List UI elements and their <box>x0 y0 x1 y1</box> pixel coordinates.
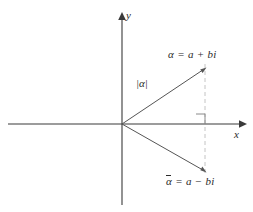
alpha-conjugate-expression: = a − bi <box>172 175 215 187</box>
y-axis-label: y <box>126 10 131 21</box>
x-axis-arrowhead <box>239 120 247 128</box>
vector-alpha-conjugate-arrowhead <box>200 166 206 172</box>
point-label-alpha-conjugate: α = a − bi <box>166 176 215 187</box>
right-angle-marker-icon <box>196 114 205 123</box>
vector-alpha <box>122 71 202 125</box>
point-label-alpha: α = a + bi <box>168 49 217 60</box>
vector-alpha-arrowhead <box>200 68 206 74</box>
figure-canvas <box>0 0 253 212</box>
vector-alpha-conjugate <box>122 124 202 170</box>
complex-plane-figure: y x |α| α = a + bi α = a − bi <box>0 0 253 212</box>
y-axis-arrowhead <box>118 12 126 20</box>
x-axis-label: x <box>234 129 239 140</box>
alpha-conjugate-symbol: α <box>166 176 172 187</box>
alpha-expression: = a + bi <box>174 48 217 60</box>
modulus-label: |α| <box>136 78 148 89</box>
